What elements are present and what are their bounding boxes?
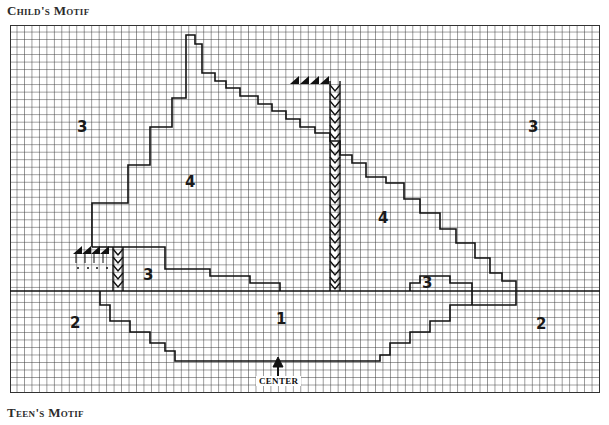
region-label-right-2: 2 <box>536 317 546 332</box>
center-label: CENTER <box>256 376 301 386</box>
region-label-left-3: 3 <box>77 120 87 135</box>
region-label-right-3: 3 <box>528 120 538 135</box>
region-label-center-1: 1 <box>276 312 286 327</box>
region-label-lower-4: 4 <box>378 211 388 226</box>
child-motif-title: Child's Motif <box>7 3 89 19</box>
region-label-left-2: 2 <box>70 316 80 331</box>
knitting-chart: 3 3 4 4 3 3 2 1 2 CENTER <box>10 25 600 393</box>
chart-grid <box>10 25 600 393</box>
teen-motif-title: Teen's Motif <box>7 405 84 421</box>
region-label-right-inner-3: 3 <box>422 276 432 291</box>
region-label-left-inner-3: 3 <box>143 268 153 283</box>
region-label-upper-4: 4 <box>185 175 195 190</box>
